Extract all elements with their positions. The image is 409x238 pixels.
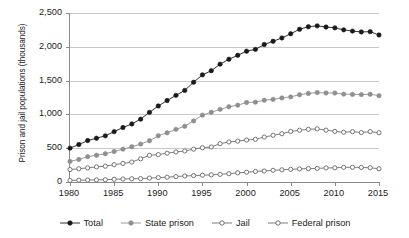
data-point xyxy=(227,57,231,61)
data-point xyxy=(324,25,328,29)
data-point xyxy=(86,178,90,182)
data-point xyxy=(103,152,107,156)
data-point xyxy=(236,103,240,107)
data-point xyxy=(377,93,381,97)
data-point xyxy=(350,29,354,33)
data-point xyxy=(209,69,213,73)
data-point xyxy=(192,147,196,151)
data-point xyxy=(165,98,169,102)
data-point xyxy=(85,138,89,142)
x-tick-label: 1990 xyxy=(134,188,180,198)
data-point xyxy=(350,92,354,96)
data-point xyxy=(68,146,72,150)
data-point xyxy=(183,149,187,153)
data-point xyxy=(147,176,151,180)
y-tick-label: 1,500 xyxy=(17,75,62,85)
data-point xyxy=(174,150,178,154)
series-state-prison xyxy=(68,90,381,163)
x-tick-label: 2010 xyxy=(311,188,357,198)
legend-marker-icon xyxy=(211,218,233,228)
legend-label: Total xyxy=(84,218,103,228)
data-point xyxy=(236,171,240,175)
data-point xyxy=(341,28,345,32)
data-point xyxy=(227,140,231,144)
data-point xyxy=(342,165,346,169)
data-point xyxy=(139,177,143,181)
data-point xyxy=(333,166,337,170)
data-point xyxy=(165,151,169,155)
data-point xyxy=(130,122,134,126)
y-tick-label: 2,500 xyxy=(17,7,62,17)
data-point xyxy=(297,167,301,171)
data-point xyxy=(112,129,116,133)
data-point xyxy=(103,134,107,138)
legend-item-state-prison[interactable]: State prison xyxy=(120,218,194,228)
data-point xyxy=(297,93,301,97)
data-point xyxy=(244,170,248,174)
data-point xyxy=(139,157,143,161)
data-point xyxy=(306,127,310,131)
data-point xyxy=(342,130,346,134)
data-point xyxy=(377,167,381,171)
data-point xyxy=(183,124,187,128)
data-point xyxy=(138,117,142,121)
legend-marker-icon xyxy=(120,218,142,228)
data-point xyxy=(218,172,222,176)
data-point xyxy=(174,127,178,131)
data-point xyxy=(192,173,196,177)
legend-label: Jail xyxy=(236,218,250,228)
data-point xyxy=(165,131,169,135)
data-point xyxy=(112,163,116,167)
data-point xyxy=(244,100,248,104)
data-point xyxy=(368,130,372,134)
data-point xyxy=(289,95,293,99)
data-point xyxy=(174,93,178,97)
data-point xyxy=(377,131,381,135)
chart-legend: TotalState prisonJailFederal prison xyxy=(0,213,409,233)
data-point xyxy=(315,90,319,94)
data-point xyxy=(121,177,125,181)
data-point xyxy=(289,129,293,133)
data-point xyxy=(156,153,160,157)
data-point xyxy=(68,178,72,182)
data-point xyxy=(191,80,195,84)
data-point xyxy=(368,92,372,96)
plot-area xyxy=(69,13,379,183)
data-point xyxy=(306,91,310,95)
data-point xyxy=(112,177,116,181)
legend-marker-icon xyxy=(59,218,81,228)
data-point xyxy=(333,91,337,95)
data-point xyxy=(280,168,284,172)
data-point xyxy=(227,105,231,109)
data-point xyxy=(359,130,363,134)
x-tick-label: 2015 xyxy=(355,188,401,198)
data-point xyxy=(209,173,213,177)
data-point xyxy=(94,178,98,182)
legend-item-total[interactable]: Total xyxy=(59,218,103,228)
data-point xyxy=(359,165,363,169)
data-point xyxy=(306,25,310,29)
data-point xyxy=(147,153,151,157)
data-point xyxy=(333,26,337,30)
data-point xyxy=(183,88,187,92)
data-point xyxy=(244,138,248,142)
data-point xyxy=(315,24,319,28)
data-point xyxy=(244,49,248,53)
legend-item-federal-prison[interactable]: Federal prison xyxy=(267,218,351,228)
data-point xyxy=(324,128,328,132)
data-point xyxy=(350,130,354,134)
data-point xyxy=(297,128,301,132)
data-point xyxy=(200,146,204,150)
series-federal-prison xyxy=(68,165,381,182)
data-point xyxy=(218,142,222,146)
legend-item-jail[interactable]: Jail xyxy=(211,218,250,228)
data-point xyxy=(368,29,372,33)
data-point xyxy=(253,137,257,141)
data-point xyxy=(315,166,319,170)
data-point xyxy=(94,165,98,169)
x-tick-label: 2005 xyxy=(267,188,313,198)
data-point xyxy=(218,62,222,66)
data-point xyxy=(271,133,275,137)
data-point xyxy=(200,73,204,77)
data-point xyxy=(68,167,72,171)
